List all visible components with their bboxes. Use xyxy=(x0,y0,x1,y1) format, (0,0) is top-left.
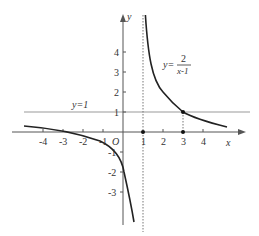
x-tick-label: -4 xyxy=(39,136,47,147)
x-axis-label: x xyxy=(225,137,231,148)
function-label-denominator: x-1 xyxy=(176,66,189,76)
function-graph: -4 -3 -2 -1 1 2 3 4 4 3 2 1 -1 -2 -3 x y… xyxy=(0,0,259,236)
point-1-0 xyxy=(141,130,145,134)
graph-svg: -4 -3 -2 -1 1 2 3 4 4 3 2 1 -1 -2 -3 x y… xyxy=(0,0,259,236)
y-tick-label: 4 xyxy=(114,47,119,58)
y-tick-label: -2 xyxy=(108,167,116,178)
asymptote-label: y=1 xyxy=(71,99,88,110)
y-tick-label: -1 xyxy=(108,147,116,158)
x-tick-label: 4 xyxy=(201,136,206,147)
y-tick-label: 3 xyxy=(114,67,119,78)
y-axis-arrow-icon xyxy=(120,14,126,22)
y-tick-label: -3 xyxy=(108,187,116,198)
point-3-1 xyxy=(181,110,185,114)
x-tick-label: -2 xyxy=(79,136,87,147)
function-label-lhs: y= xyxy=(162,59,174,70)
x-tick-label: 1 xyxy=(141,136,146,147)
y-tick-label: 2 xyxy=(114,87,119,98)
x-tick-label: 2 xyxy=(161,136,166,147)
function-label-numerator: 2 xyxy=(181,53,186,64)
x-tick-label: -1 xyxy=(99,136,107,147)
point-3-0 xyxy=(181,130,185,134)
x-axis-arrow-icon xyxy=(238,129,246,135)
origin-label: O xyxy=(112,136,119,147)
y-tick-label: 1 xyxy=(114,107,119,118)
x-tick-label: 3 xyxy=(181,136,186,147)
x-tick-label: -3 xyxy=(59,136,67,147)
y-axis-label: y xyxy=(126,11,132,22)
